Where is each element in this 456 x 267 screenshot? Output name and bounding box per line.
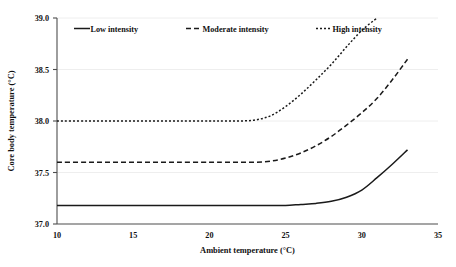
x-tick-label-20: 20 <box>205 231 213 240</box>
y-tick-label-38-5: 38.5 <box>35 66 49 75</box>
x-tick-label-35: 35 <box>434 231 442 240</box>
chart-figure: 39.0 38.5 38.0 37.5 37.0 10 15 20 25 30 … <box>0 0 456 267</box>
line-chart: 39.0 38.5 38.0 37.5 37.0 10 15 20 25 30 … <box>0 0 456 267</box>
series-lines <box>57 18 408 206</box>
y-tick-label-37-0: 37.0 <box>35 220 49 229</box>
x-axis-title: Ambient temperature (°C) <box>200 246 295 255</box>
series-line-moderate-intensity <box>57 59 408 162</box>
x-tick-label-25: 25 <box>282 231 290 240</box>
grid-lines <box>57 18 438 173</box>
y-axis-title: Core body temperature (°C) <box>7 70 16 171</box>
x-tick-label-15: 15 <box>129 231 137 240</box>
y-axis-tick-labels: 39.0 38.5 38.0 37.5 37.0 <box>35 14 49 229</box>
legend-label-high-intensity: High intensity <box>333 25 383 34</box>
y-tick-label-38-0: 38.0 <box>35 117 49 126</box>
series-line-low-intensity <box>57 150 408 206</box>
y-tick-label-37-5: 37.5 <box>35 169 49 178</box>
y-axis-ticks <box>53 18 57 224</box>
y-tick-label-39-0: 39.0 <box>35 14 49 23</box>
legend: Low intensity Moderate intensity High in… <box>74 25 383 34</box>
x-axis-tick-labels: 10 15 20 25 30 35 <box>53 231 442 240</box>
x-tick-label-10: 10 <box>53 231 61 240</box>
legend-label-moderate-intensity: Moderate intensity <box>203 25 270 34</box>
x-tick-label-30: 30 <box>358 231 366 240</box>
legend-label-low-intensity: Low intensity <box>91 25 139 34</box>
